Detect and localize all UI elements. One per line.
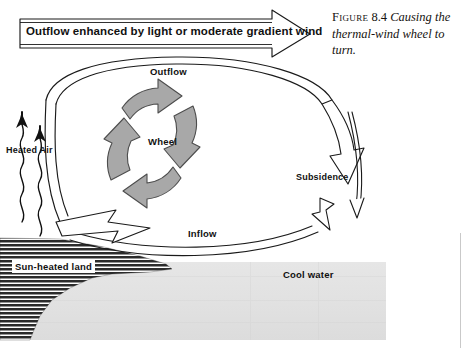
- caption-figure-word: Figure: [332, 10, 368, 24]
- heated-air-wavy-arrows: [16, 112, 46, 236]
- figure-container: Outflow enhanced by light or moderate gr…: [0, 0, 470, 354]
- subsidence-label: Subsidence: [296, 172, 349, 182]
- caption-figure-number: 8.4: [371, 10, 387, 24]
- outflow-label: Outflow: [150, 66, 187, 77]
- inflow-arrow-head: [56, 210, 150, 243]
- heated-air-label: Heated Air: [6, 145, 53, 155]
- figure-caption: Figure 8.4 Causing the thermal-wind whee…: [332, 9, 464, 59]
- sun-heated-land-label: Sun-heated land: [12, 260, 95, 273]
- wheel-label: Wheel: [148, 136, 177, 147]
- banner-label: Outflow enhanced by light or moderate gr…: [26, 25, 322, 37]
- cool-water-label: Cool water: [283, 269, 334, 280]
- subsidence-loop-arrowhead: [312, 198, 334, 230]
- inflow-label: Inflow: [188, 228, 217, 239]
